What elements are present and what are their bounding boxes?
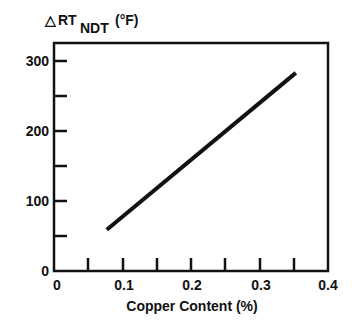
y-axis-title: △ RT NDT (°F) [44, 12, 138, 36]
x-tick-label-0.1: 0.1 [114, 277, 134, 293]
y-ticks [54, 61, 67, 236]
x-axis-title: Copper Content (%) [126, 298, 257, 314]
y-title-subscript: NDT [80, 20, 109, 36]
x-ticks [88, 258, 294, 271]
data-line [107, 73, 296, 230]
delta-symbol: △ [44, 12, 57, 28]
y-tick-label-100: 100 [26, 193, 50, 209]
x-tick-label-0.3: 0.3 [251, 277, 271, 293]
plot-frame [54, 43, 328, 271]
y-title-unit: (°F) [115, 12, 138, 28]
y-title-main: RT [58, 12, 77, 28]
x-tick-label-0.4: 0.4 [318, 277, 338, 293]
chart: 0 100 200 300 0 0.1 0.2 0.3 0.4 Copper C… [0, 0, 352, 329]
y-tick-label-0: 0 [41, 263, 49, 279]
x-tick-label-0.2: 0.2 [182, 277, 202, 293]
x-tick-label-0: 0 [53, 277, 61, 293]
y-tick-label-300: 300 [26, 53, 50, 69]
y-tick-label-200: 200 [26, 123, 50, 139]
